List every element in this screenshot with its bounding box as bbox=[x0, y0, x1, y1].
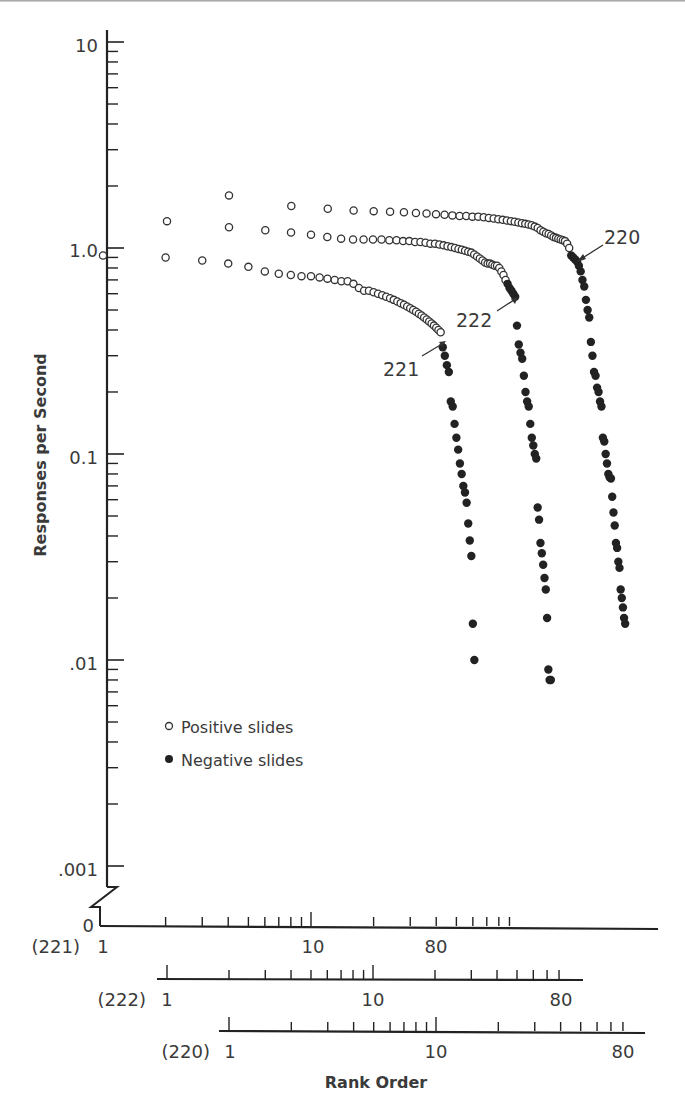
y-axis-title: Responses per Second bbox=[31, 353, 50, 556]
positive-point bbox=[316, 274, 323, 281]
positive-point bbox=[369, 236, 376, 243]
x-tick-222-1: 1 bbox=[161, 989, 172, 1010]
open-circle-icon bbox=[166, 723, 173, 730]
annotation-220-label: 220 bbox=[604, 226, 640, 248]
annotation-221: 221 bbox=[383, 341, 446, 380]
positive-point bbox=[261, 268, 268, 275]
y-tick-10: 10 bbox=[75, 35, 98, 56]
y-tick-1: 1.0 bbox=[69, 240, 98, 261]
negative-point bbox=[585, 313, 593, 321]
negative-point bbox=[469, 620, 477, 628]
negative-point bbox=[448, 402, 456, 410]
positive-point bbox=[400, 209, 407, 216]
positive-point bbox=[324, 275, 331, 282]
positive-point bbox=[378, 236, 385, 243]
positive-point bbox=[307, 273, 314, 280]
negative-point bbox=[456, 459, 464, 467]
negative-point bbox=[618, 594, 626, 602]
negative-point bbox=[583, 306, 591, 314]
negative-point bbox=[603, 459, 611, 467]
negative-point bbox=[525, 402, 533, 410]
x-axis-label-222: (222) bbox=[98, 989, 146, 1010]
annotation-221-label: 221 bbox=[383, 358, 419, 380]
negative-point bbox=[580, 282, 588, 290]
x-tick-220-10: 10 bbox=[425, 1041, 448, 1062]
x-axis-220: (220) 1 10 80 Rank Order bbox=[162, 1017, 645, 1092]
positive-point bbox=[324, 233, 331, 240]
positive-point bbox=[163, 218, 170, 225]
negative-point bbox=[528, 433, 536, 441]
x-axis-222: (222) 1 10 80 bbox=[98, 965, 583, 1010]
positive-point bbox=[437, 329, 444, 336]
negative-point bbox=[582, 296, 590, 304]
negative-point bbox=[616, 585, 624, 593]
negative-point bbox=[445, 368, 453, 376]
x-axis-label-221: (221) bbox=[32, 936, 80, 957]
chart: 10 1.0 0.1 .01 .001 0 Responses per Seco… bbox=[0, 0, 685, 1112]
positive-point bbox=[99, 252, 106, 259]
positive-point bbox=[337, 235, 344, 242]
positive-point bbox=[307, 231, 314, 238]
negative-point bbox=[518, 355, 526, 363]
y-axis: 10 1.0 0.1 .01 .001 0 Responses per Seco… bbox=[31, 30, 124, 936]
annotation-222: 222 bbox=[456, 297, 518, 331]
x-tick-222-10: 10 bbox=[362, 989, 385, 1010]
negative-point bbox=[591, 371, 599, 379]
negative-point bbox=[607, 474, 615, 482]
positive-point bbox=[162, 254, 169, 261]
negative-point bbox=[452, 433, 460, 441]
positive-point bbox=[288, 202, 295, 209]
negative-point bbox=[538, 549, 546, 557]
negative-point bbox=[587, 338, 595, 346]
x-axis-label-220: (220) bbox=[162, 1041, 210, 1062]
negative-point bbox=[454, 445, 462, 453]
negative-point bbox=[466, 536, 474, 544]
negative-point bbox=[521, 388, 529, 396]
negative-point bbox=[611, 521, 619, 529]
positive-point bbox=[298, 273, 305, 280]
positive-point bbox=[423, 210, 430, 217]
positive-point bbox=[245, 263, 252, 270]
negative-point bbox=[529, 441, 537, 449]
positive-point bbox=[262, 227, 269, 234]
x-tick-221-80: 80 bbox=[425, 936, 448, 957]
negative-point bbox=[457, 470, 465, 478]
positive-point bbox=[386, 237, 393, 244]
negative-point bbox=[539, 561, 547, 569]
negative-point bbox=[588, 352, 596, 360]
x-tick-222-80: 80 bbox=[550, 989, 573, 1010]
negative-point bbox=[576, 267, 584, 275]
positive-point bbox=[449, 212, 456, 219]
positive-point bbox=[349, 236, 356, 243]
positive-point bbox=[199, 257, 206, 264]
negative-point bbox=[526, 420, 534, 428]
negative-point bbox=[532, 454, 540, 462]
negative-point bbox=[615, 564, 623, 572]
filled-circle-icon bbox=[165, 755, 173, 763]
y-tick-0.1: 0.1 bbox=[69, 447, 98, 468]
negative-point bbox=[543, 614, 551, 622]
positive-point bbox=[566, 244, 573, 251]
positive-point bbox=[412, 209, 419, 216]
x-tick-221-1: 1 bbox=[97, 936, 108, 957]
negative-point bbox=[535, 515, 543, 523]
data-points bbox=[99, 192, 629, 684]
negative-point bbox=[542, 585, 550, 593]
positive-point bbox=[225, 260, 232, 267]
x-axis-title: Rank Order bbox=[325, 1073, 428, 1092]
negative-point bbox=[544, 665, 552, 673]
negative-point bbox=[609, 508, 617, 516]
negative-point bbox=[461, 488, 469, 496]
negative-point bbox=[520, 371, 528, 379]
positive-point bbox=[441, 211, 448, 218]
annotation-222-label: 222 bbox=[456, 309, 492, 331]
legend-positive-label: Positive slides bbox=[181, 718, 293, 737]
y-tick-0: 0 bbox=[83, 915, 94, 936]
negative-point bbox=[597, 402, 605, 410]
negative-point bbox=[608, 493, 616, 501]
annotation-220: 220 bbox=[577, 226, 640, 262]
positive-point bbox=[287, 271, 294, 278]
x-tick-220-1: 1 bbox=[224, 1041, 235, 1062]
negative-point bbox=[464, 519, 472, 527]
negative-point bbox=[619, 603, 627, 611]
